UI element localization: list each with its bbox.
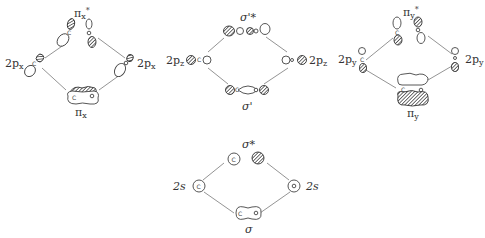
right-2px-label: 2px [137,57,156,71]
connector-line [203,163,224,180]
pi-x-star-label: πx* [74,6,90,21]
connector-line [98,38,125,58]
connector-line [366,38,393,60]
left-2s-label: 2s [172,180,186,193]
sigma-prime-star-label: σ'* [240,11,257,24]
svg-text:C: C [197,56,201,63]
connector-line [260,192,290,213]
svg-text:C: C [238,210,242,217]
sigma-2s-bonding-orbital: C [236,207,261,220]
sigma-prime-bonding-orbital: C [226,86,269,95]
connector-line [428,66,452,80]
pi-y-label: πy [407,107,419,121]
svg-text:C: C [72,94,76,101]
connector-line [204,192,234,213]
connector-line [428,36,452,54]
left-2px-label: 2px [5,57,24,71]
pi-x-bonding-orbital: C [68,87,99,105]
svg-text:C: C [32,60,36,67]
sigma-star-label: σ* [242,138,256,151]
svg-text:C: C [67,29,71,36]
right-2py-orbital [452,48,459,72]
connector-line [264,68,288,84]
sigma-2s-diagram: C C C σ* 2s 2s σ [172,138,319,236]
sigma-2s-antibonding-orbital: C [228,152,264,165]
left-2py-orbital: C [359,48,367,73]
sigma-prime-diagram: C C σ'* 2pz 2pz σ' [166,11,327,113]
connector-line [42,68,66,90]
pi-x-antibonding-orbital: C [55,18,96,49]
pi-y-diagram: C C C πy* 2py 2py πy [338,5,484,121]
connector-line [366,70,396,88]
connector-line [208,68,228,84]
sigma-prime-antibonding-orbital [224,24,271,37]
pi-y-antibonding-orbital: C [393,17,425,45]
left-2pz-orbital: C [187,56,212,65]
right-2py-label: 2py [465,53,484,67]
pi-x-diagram: C C C πx* 2px 2px πx [5,6,156,120]
pi-x-label: πx [75,106,87,120]
connector-line [267,163,289,180]
sigma-label: σ [245,223,253,236]
connector-line [208,38,224,52]
right-2s-label: 2s [305,180,319,193]
svg-text:C: C [197,183,201,190]
svg-text:C: C [232,156,236,163]
right-2s-orbital [288,180,300,192]
connector-line [266,37,287,52]
pi-y-bonding-orbital: C [398,73,429,106]
left-2px-orbital: C [22,53,45,79]
mo-diagram-canvas: C C C πx* 2px 2px πx [0,0,485,238]
sigma-prime-label: σ' [242,100,253,113]
svg-text:C: C [360,56,364,63]
left-2pz-label: 2pz [166,54,184,68]
right-2pz-label: 2pz [309,54,327,68]
left-2py-label: 2py [338,53,357,67]
right-2pz-orbital [282,56,307,65]
left-2s-orbital: C [193,180,205,192]
